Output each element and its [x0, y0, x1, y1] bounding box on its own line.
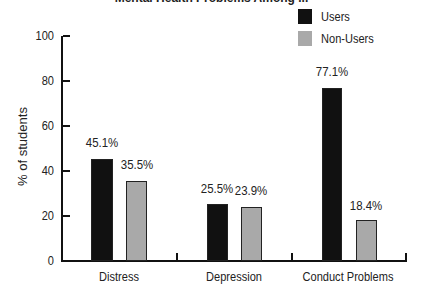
- legend-item-nonusers: Non-Users: [298, 31, 383, 46]
- bar-conduct-users: [322, 88, 342, 261]
- chart-title: Mental Health Problems Among ...: [0, 0, 423, 5]
- y-tick-60: [63, 125, 70, 127]
- x-tick-2: [291, 253, 293, 260]
- legend-swatch-users: [298, 9, 312, 24]
- legend-label-nonusers: Non-Users: [321, 31, 374, 46]
- y-tick-100: [63, 35, 70, 37]
- y-tick-20: [63, 215, 70, 217]
- y-tick-label-40: 40: [20, 163, 54, 178]
- legend-label-users: Users: [321, 9, 350, 24]
- y-tick-label-60: 60: [20, 118, 54, 133]
- category-label-conduct-problems: Conduct Problems: [297, 269, 399, 284]
- legend-swatch-nonusers: [298, 31, 312, 46]
- y-tick-label-20: 20: [20, 208, 54, 223]
- value-label-depression-nonusers: 23.9%: [229, 183, 273, 198]
- y-tick-80: [63, 80, 70, 82]
- value-label-distress-nonusers: 35.5%: [115, 157, 159, 172]
- y-tick-label-100: 100: [20, 28, 54, 43]
- y-tick-label-0: 0: [20, 253, 54, 268]
- y-tick-40: [63, 170, 70, 172]
- x-tick-3: [405, 253, 407, 260]
- bar-depression-users: [207, 204, 228, 261]
- category-label-depression: Depression: [183, 269, 285, 284]
- bar-depression-nonusers: [241, 207, 262, 261]
- bar-distress-users: [91, 159, 113, 261]
- x-tick-1: [176, 253, 178, 260]
- y-axis: [61, 36, 63, 262]
- bar-conduct-nonusers: [356, 220, 377, 261]
- value-label-distress-users: 45.1%: [80, 135, 124, 150]
- legend-item-users: Users: [298, 9, 355, 24]
- value-label-conduct-users: 77.1%: [310, 64, 354, 79]
- category-label-distress: Distress: [68, 269, 170, 284]
- value-label-conduct-nonusers: 18.4%: [344, 198, 388, 213]
- y-tick-label-80: 80: [20, 73, 54, 88]
- bar-distress-nonusers: [126, 181, 147, 261]
